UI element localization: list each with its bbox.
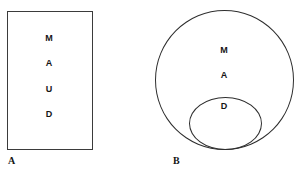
panel-a-label-m: M [41,34,57,43]
panel-b-label-m: M [216,46,232,55]
panel-a-rectangle [7,11,93,150]
panel-a-caption: A [8,156,15,166]
panel-a-label-u: U [41,85,57,94]
panel-b-label-d: D [216,102,232,111]
panel-a-label-d: D [41,110,57,119]
diagram-figure: M A U D A M A D B [0,0,305,172]
panel-b-label-a: A [216,71,232,80]
panel-b-caption: B [173,156,180,166]
panel-a-label-a: A [41,59,57,68]
